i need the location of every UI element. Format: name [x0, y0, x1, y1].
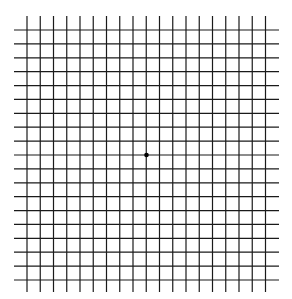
amsler-grid [0, 0, 292, 299]
center-fixation-dot [144, 153, 149, 158]
